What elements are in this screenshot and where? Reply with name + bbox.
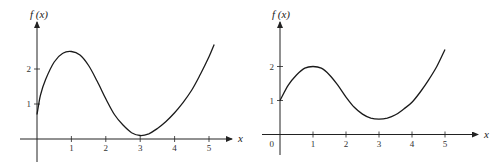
- y-tick-label: 2: [27, 64, 32, 74]
- x-axis-label: x: [237, 132, 243, 144]
- x-tick-label: 5: [443, 139, 448, 149]
- x-tick-label: 3: [138, 143, 143, 153]
- function-curve: [37, 45, 214, 136]
- x-tick-label: 1: [311, 139, 316, 149]
- function-curve: [280, 50, 445, 120]
- x-tick-label: 4: [410, 139, 415, 149]
- left-graph: 1234512f (x)x: [20, 8, 243, 162]
- x-tick-label: 5: [207, 143, 212, 153]
- x-axis-label: x: [483, 128, 489, 140]
- x-tick-label: 3: [377, 139, 382, 149]
- x-tick-label: 4: [172, 143, 177, 153]
- right-graph: 12345120f (x)x: [262, 8, 489, 155]
- origin-label: 0: [270, 139, 275, 149]
- y-axis-label: f (x): [30, 8, 48, 21]
- function-graphs: 1234512f (x)x 12345120f (x)x: [0, 0, 502, 168]
- x-tick-label: 1: [69, 143, 74, 153]
- y-tick-label: 1: [27, 99, 32, 109]
- y-axis-label: f (x): [272, 8, 290, 21]
- y-tick-label: 1: [270, 96, 275, 106]
- y-tick-label: 2: [270, 62, 275, 72]
- x-tick-label: 2: [344, 139, 349, 149]
- x-tick-label: 2: [104, 143, 109, 153]
